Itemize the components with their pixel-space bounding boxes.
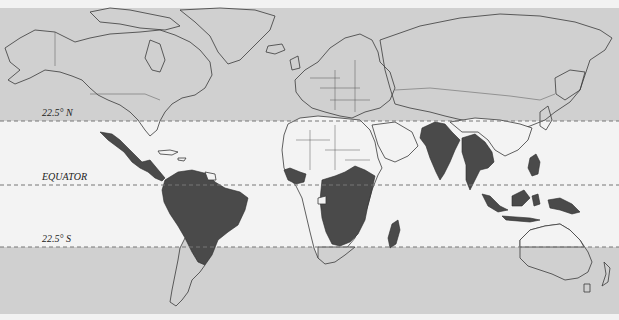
northern-band (0, 8, 619, 121)
label-equator: EQUATOR (42, 171, 87, 182)
label-22-5-north: 22.5° N (42, 107, 73, 118)
label-22-5-south: 22.5° S (42, 233, 71, 244)
world-map (0, 0, 619, 320)
